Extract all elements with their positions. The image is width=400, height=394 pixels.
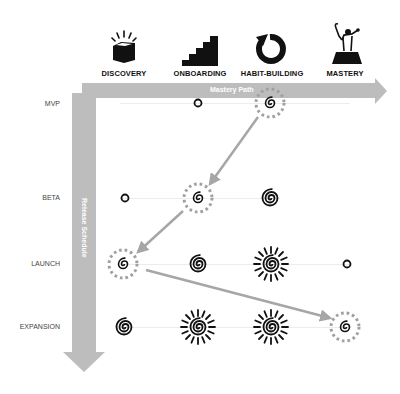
cell-expansion-mastery-highlight <box>331 313 359 341</box>
cell-launch-habit-building-sun <box>254 247 288 281</box>
cell-beta-habit-building-spiral <box>263 189 278 205</box>
cell-beta-discovery-dot <box>122 195 129 202</box>
cell-beta-onboarding-highlight <box>184 184 212 212</box>
path-arrow-mvp-to-beta <box>210 117 258 184</box>
path-arrow-launch-to-expansion <box>146 270 330 318</box>
cell-mvp-onboarding-dot <box>195 100 202 107</box>
mastery-path-arrows <box>138 117 330 318</box>
cell-expansion-discovery-spiral <box>117 318 132 334</box>
cell-expansion-onboarding-sun <box>181 310 215 344</box>
cell-launch-mastery-dot <box>344 261 351 268</box>
cell-launch-discovery-highlight <box>109 250 137 278</box>
cell-mvp-habit-building-highlight <box>256 89 284 117</box>
cell-launch-onboarding-spiral <box>191 255 206 271</box>
cell-expansion-habit-building-sun <box>254 310 288 344</box>
path-arrow-beta-to-launch <box>138 211 183 252</box>
maturity-grid <box>0 0 400 394</box>
